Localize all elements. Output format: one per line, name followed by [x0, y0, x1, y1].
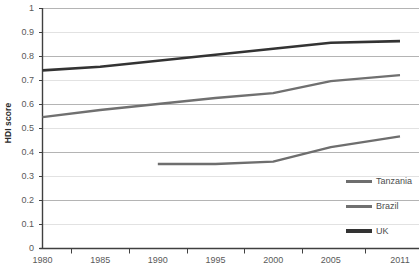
y-tick-label: 0.7 [0, 76, 34, 85]
x-tick-label: 1980 [16, 256, 70, 265]
x-tick-label: 2000 [246, 256, 300, 265]
y-tick-label: 0 [0, 244, 34, 253]
y-tick-label: 0.2 [0, 196, 34, 205]
series-line-brazil [43, 75, 401, 117]
y-tick-label: 0.5 [0, 124, 34, 133]
y-axis-title: HDI score [0, 0, 14, 273]
legend-label: UK [376, 227, 389, 236]
legend-item-uk: UK [346, 224, 389, 238]
legend-swatch-icon [346, 229, 372, 232]
y-tick-label: 0.8 [0, 52, 34, 61]
x-tick-label: 1985 [73, 256, 127, 265]
series-line-tanzania [158, 136, 400, 164]
y-tick-label: 0.4 [0, 148, 34, 157]
x-axis-ticks [72, 249, 366, 254]
legend-label: Tanzania [376, 177, 412, 186]
legend-swatch-icon [346, 180, 372, 183]
legend-item-brazil: Brazil [346, 199, 399, 213]
y-tick-label: 0.9 [0, 28, 34, 37]
legend-item-tanzania: Tanzania [346, 174, 412, 188]
series-line-uk [43, 41, 401, 70]
legend-label: Brazil [376, 202, 399, 211]
y-tick-label: 1 [0, 4, 34, 13]
x-tick-label: 1990 [131, 256, 185, 265]
y-tick-label: 0.6 [0, 100, 34, 109]
x-tick-label: 2011 [373, 256, 420, 265]
y-tick-label: 0.3 [0, 172, 34, 181]
hdi-score-line-chart: HDI score 10.90.80.70.60.50.40.30.20.10 … [0, 0, 420, 273]
x-tick-label: 1995 [188, 256, 242, 265]
series-lines [43, 41, 401, 164]
legend-swatch-icon [346, 205, 372, 208]
x-tick-label: 2005 [304, 256, 358, 265]
y-tick-label: 0.1 [0, 220, 34, 229]
